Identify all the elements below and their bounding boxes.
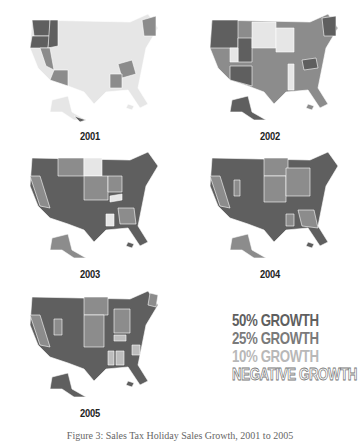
map-panel-2002: 2002	[190, 8, 350, 138]
map-panel-2001: 2001	[10, 8, 170, 138]
legend-text-negative: NEGATIVE GROWTH	[232, 365, 357, 384]
map-panel-2005: 2005	[10, 285, 170, 415]
legend-pct-25: 25%	[232, 329, 257, 348]
figure-caption: Figure 3: Sales Tax Holiday Sales Growth…	[0, 430, 360, 441]
map-panel-2004: 2004	[190, 146, 350, 276]
year-label-2004: 2004	[202, 268, 338, 280]
legend-item-25: 25% GROWTH	[232, 330, 326, 348]
legend-item-negative: NEGATIVE GROWTH	[232, 366, 326, 384]
year-label-2005: 2005	[22, 407, 158, 419]
legend-text-50: GROWTH	[257, 311, 318, 330]
year-label-2002: 2002	[202, 130, 338, 142]
year-label-2003: 2003	[22, 268, 158, 280]
legend-pct-50: 50%	[232, 311, 257, 330]
us-map-2001	[10, 8, 170, 126]
us-map-2004	[190, 146, 350, 264]
us-map-2002	[190, 8, 350, 126]
legend-item-50: 50% GROWTH	[232, 312, 326, 330]
us-map-2003	[10, 146, 170, 264]
legend-item-10: 10% GROWTH	[232, 348, 326, 366]
legend: 50% GROWTH 25% GROWTH 10% GROWTH NEGATIV…	[232, 312, 352, 384]
us-map-2005	[10, 285, 170, 403]
legend-text-10: GROWTH	[257, 347, 318, 366]
legend-pct-10: 10%	[232, 347, 257, 366]
legend-text-25: GROWTH	[257, 329, 318, 348]
year-label-2001: 2001	[22, 130, 158, 142]
map-panel-2003: 2003	[10, 146, 170, 276]
